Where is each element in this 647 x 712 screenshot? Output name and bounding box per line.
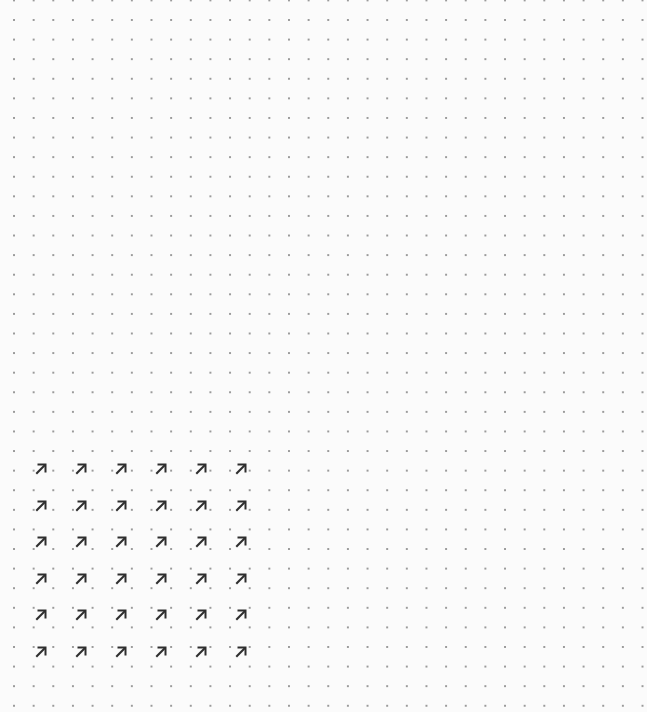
arrow-up-right-icon[interactable] [154, 572, 168, 586]
arrow-up-right-icon[interactable] [194, 608, 208, 622]
arrow-up-right-icon[interactable] [114, 499, 128, 513]
arrow-up-right-icon[interactable] [234, 462, 248, 476]
arrow-up-right-icon[interactable] [34, 535, 48, 549]
dot-grid-board [0, 0, 647, 712]
arrow-up-right-icon[interactable] [234, 608, 248, 622]
arrow-up-right-icon[interactable] [74, 462, 88, 476]
arrow-up-right-icon[interactable] [114, 462, 128, 476]
arrow-up-right-icon[interactable] [154, 608, 168, 622]
arrow-up-right-icon[interactable] [194, 572, 208, 586]
arrow-up-right-icon[interactable] [234, 645, 248, 659]
arrow-up-right-icon[interactable] [234, 535, 248, 549]
arrow-up-right-icon[interactable] [154, 462, 168, 476]
arrow-up-right-icon[interactable] [114, 572, 128, 586]
arrow-grid [0, 0, 647, 712]
arrow-up-right-icon[interactable] [34, 462, 48, 476]
arrow-up-right-icon[interactable] [114, 645, 128, 659]
arrow-up-right-icon[interactable] [154, 645, 168, 659]
arrow-up-right-icon[interactable] [74, 535, 88, 549]
arrow-up-right-icon[interactable] [34, 572, 48, 586]
arrow-up-right-icon[interactable] [154, 535, 168, 549]
arrow-up-right-icon[interactable] [114, 535, 128, 549]
arrow-up-right-icon[interactable] [194, 499, 208, 513]
arrow-up-right-icon[interactable] [234, 499, 248, 513]
arrow-up-right-icon[interactable] [34, 499, 48, 513]
arrow-up-right-icon[interactable] [74, 645, 88, 659]
arrow-up-right-icon[interactable] [234, 572, 248, 586]
arrow-up-right-icon[interactable] [194, 645, 208, 659]
arrow-up-right-icon[interactable] [154, 499, 168, 513]
arrow-up-right-icon[interactable] [194, 462, 208, 476]
arrow-up-right-icon[interactable] [114, 608, 128, 622]
arrow-up-right-icon[interactable] [74, 499, 88, 513]
arrow-up-right-icon[interactable] [34, 645, 48, 659]
arrow-up-right-icon[interactable] [34, 608, 48, 622]
arrow-up-right-icon[interactable] [74, 572, 88, 586]
arrow-up-right-icon[interactable] [194, 535, 208, 549]
arrow-up-right-icon[interactable] [74, 608, 88, 622]
